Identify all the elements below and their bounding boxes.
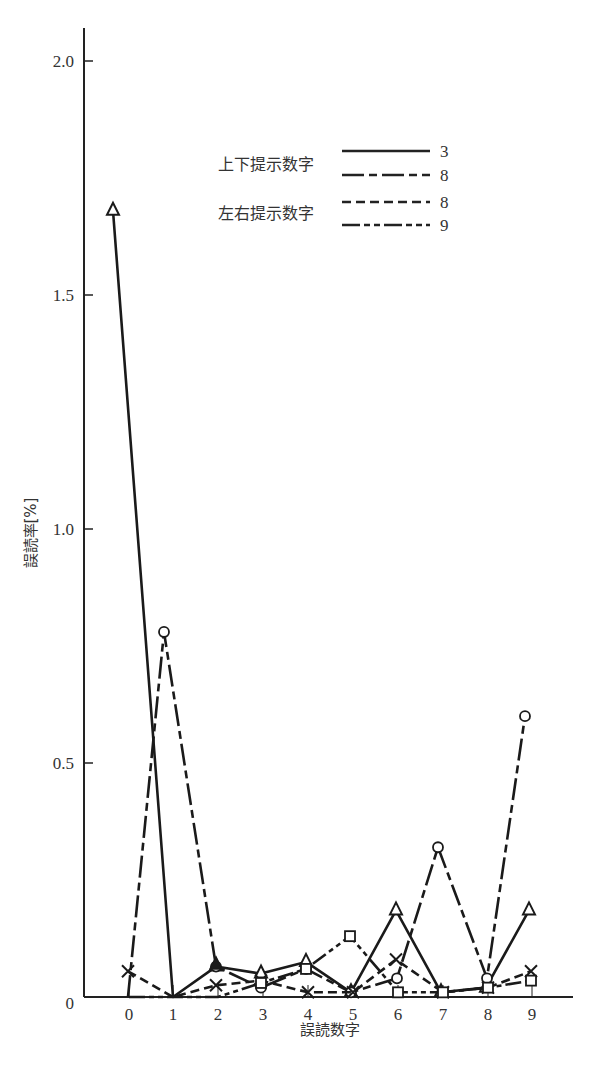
series-layer	[107, 203, 537, 999]
triangle-marker	[523, 902, 535, 914]
cross-marker	[390, 954, 402, 966]
x-axis-title: 誤読数字	[300, 1021, 360, 1039]
square-marker	[256, 978, 266, 988]
x-tick-label: 2	[214, 1005, 223, 1024]
square-marker	[526, 976, 536, 986]
legend-entry-3: 3	[440, 142, 449, 161]
line-chart: 00.51.01.52.0 0123456789 誤読数字 誤読率[%] 上下提…	[0, 0, 589, 1066]
legend-entry-8-vertical: 8	[440, 166, 449, 185]
square-marker	[345, 931, 355, 941]
legend-group-horizontal-label: 左右提示数字	[218, 204, 314, 223]
x-tick-label: 1	[169, 1005, 178, 1024]
x-tick-label: 0	[125, 1005, 134, 1024]
circle-marker	[433, 842, 443, 852]
y-tick-label: 2.0	[53, 52, 74, 71]
x-tick-label: 6	[394, 1005, 403, 1024]
x-ticks: 0123456789	[125, 985, 537, 1024]
circle-marker	[159, 627, 169, 637]
legend: 上下提示数字 左右提示数字 3 8 8 9	[218, 142, 449, 235]
circle-marker	[392, 973, 402, 983]
legend-entry-8-horizontal: 8	[440, 193, 449, 212]
series-circle	[128, 627, 530, 997]
y-ticks: 00.51.01.52.0	[53, 52, 93, 1013]
legend-entry-9: 9	[440, 216, 449, 235]
series-line	[113, 211, 529, 997]
square-marker	[393, 987, 403, 997]
y-tick-label: 0	[66, 994, 75, 1013]
legend-group-vertical-label: 上下提示数字	[218, 155, 314, 174]
series-square	[129, 931, 536, 997]
circle-marker	[520, 711, 530, 721]
cross-marker	[122, 965, 134, 977]
axes: 00.51.01.52.0 0123456789	[53, 28, 573, 1024]
series-line	[128, 632, 525, 997]
y-tick-label: 1.0	[53, 520, 74, 539]
x-tick-label: 7	[439, 1005, 448, 1024]
y-tick-label: 0.5	[53, 754, 74, 773]
series-line	[129, 936, 531, 997]
x-tick-label: 8	[484, 1005, 493, 1024]
y-axis-title: 誤読率[%]	[22, 498, 40, 569]
square-marker	[301, 964, 311, 974]
series-triangle	[107, 203, 535, 997]
square-marker	[438, 987, 448, 997]
triangle-marker	[390, 902, 402, 914]
x-tick-label: 9	[528, 1005, 537, 1024]
square-marker	[483, 983, 493, 993]
series-cross	[122, 954, 537, 999]
triangle-marker	[107, 203, 119, 215]
y-tick-label: 1.5	[53, 286, 74, 305]
x-tick-label: 3	[259, 1005, 268, 1024]
